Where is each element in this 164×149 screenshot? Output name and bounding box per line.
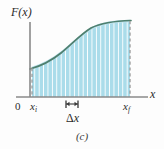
x-final-tick-label: xf (123, 101, 130, 114)
figure-caption: (c) (0, 130, 164, 142)
delta-symbol: Δ (66, 111, 74, 125)
shaded-area-under-curve (30, 18, 132, 98)
work-area-under-curve-figure: F(x) x 0 xi xf Δx (c) (0, 0, 164, 149)
x-axis-label: x (150, 88, 155, 100)
origin-label: 0 (15, 101, 21, 112)
delta-x-label: Δx (66, 112, 79, 124)
delta-x-width-marker (66, 101, 78, 109)
y-axis-label: F(x) (11, 6, 32, 18)
delta-x-variable: x (74, 111, 79, 125)
x-initial-subscript: i (35, 105, 37, 114)
x-initial-tick-label: xi (30, 101, 37, 114)
plot-canvas (0, 0, 164, 149)
x-final-subscript: f (128, 105, 130, 114)
